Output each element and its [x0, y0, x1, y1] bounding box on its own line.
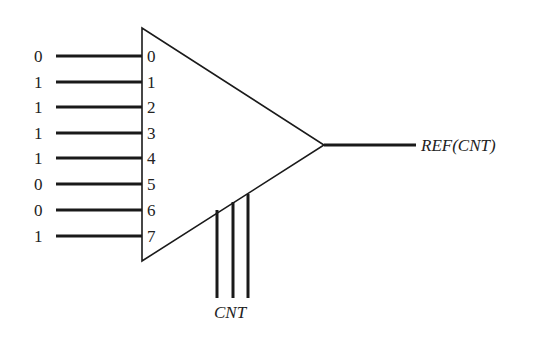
- input-6: 06: [34, 201, 156, 220]
- input-index: 4: [147, 149, 156, 168]
- input-index: 2: [147, 98, 156, 117]
- input-1: 11: [34, 73, 156, 92]
- output-label: REF(CNT): [420, 136, 496, 155]
- input-index: 3: [147, 124, 156, 143]
- multiplexer-diagram: 0011121314050617 CNT REF(CNT): [0, 0, 536, 346]
- input-value: 1: [34, 73, 43, 92]
- input-0: 00: [34, 47, 156, 66]
- input-lines: 0011121314050617: [34, 47, 156, 246]
- input-5: 05: [34, 175, 156, 194]
- input-index: 0: [147, 47, 156, 66]
- input-index: 5: [147, 175, 156, 194]
- input-index: 6: [147, 201, 156, 220]
- input-value: 1: [34, 227, 43, 246]
- input-3: 13: [34, 124, 156, 143]
- input-value: 0: [34, 47, 43, 66]
- input-value: 1: [34, 124, 43, 143]
- input-index: 7: [147, 227, 156, 246]
- input-value: 0: [34, 201, 43, 220]
- input-7: 17: [34, 227, 156, 246]
- input-value: 0: [34, 175, 43, 194]
- input-value: 1: [34, 149, 43, 168]
- input-4: 14: [34, 149, 156, 168]
- control-label: CNT: [214, 303, 248, 322]
- input-value: 1: [34, 98, 43, 117]
- input-index: 1: [147, 73, 156, 92]
- input-2: 12: [34, 98, 156, 117]
